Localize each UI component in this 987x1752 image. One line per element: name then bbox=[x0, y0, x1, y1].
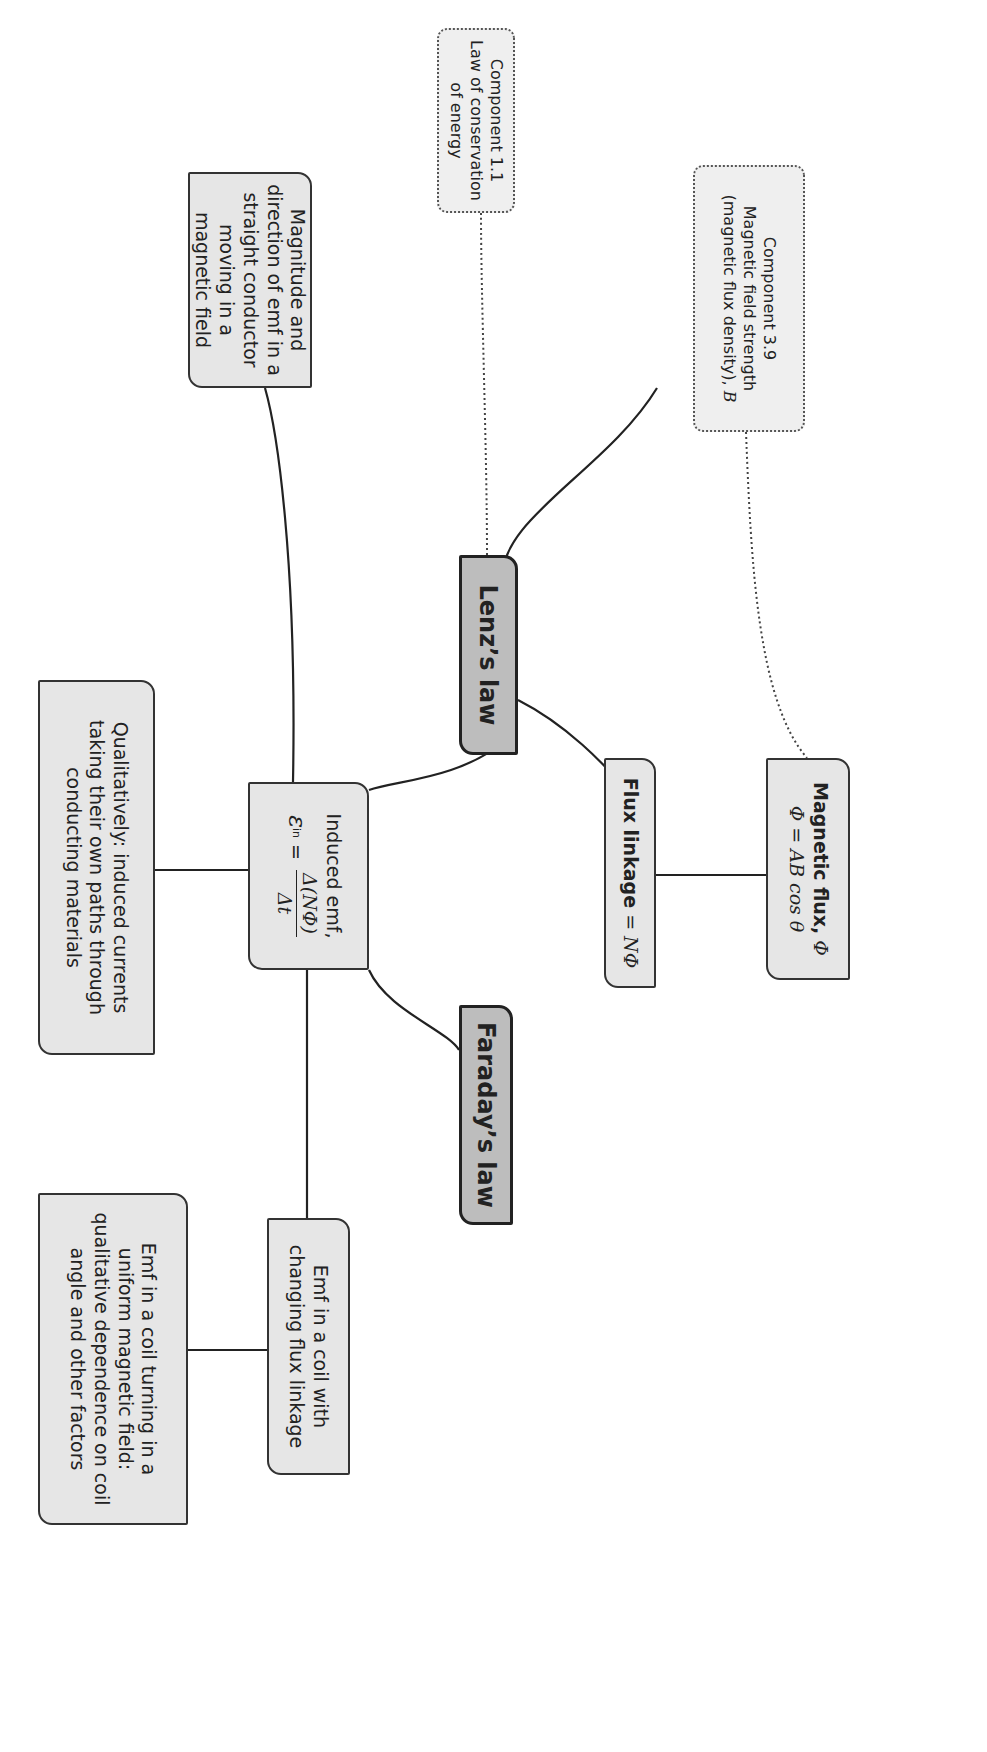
qualitative-currents-text: Qualitatively: induced currents taking t… bbox=[61, 692, 132, 1043]
link-ref-3-9-magnetic bbox=[746, 432, 807, 758]
component-1-1-text: Law of conservation of energy bbox=[446, 40, 486, 201]
flux-linkage-label: Flux linkage bbox=[618, 778, 642, 908]
component-1-1-title: Component 1.1 bbox=[486, 59, 506, 182]
lenz-law-label: Lenz’s law bbox=[474, 585, 504, 726]
induced-emf-box: Induced emf, εin = Δ(NΦ)Δt bbox=[248, 782, 369, 970]
component-3-9-line3: (magnetic flux density), B bbox=[719, 195, 739, 403]
magnitude-direction-text: Magnitude and direction of emf in a stra… bbox=[191, 184, 310, 376]
induced-emf-title: Induced emf, bbox=[321, 814, 345, 939]
component-1-1-box: Component 1.1 Law of conservation of ene… bbox=[437, 28, 515, 213]
faraday-law-label: Faraday’s law bbox=[471, 1022, 501, 1208]
emf-changing-flux-text: Emf in a coil with changing flux linkage bbox=[285, 1230, 333, 1463]
flux-linkage-box: Flux linkage = NΦ bbox=[604, 758, 656, 988]
link-induced-faraday bbox=[369, 970, 459, 1050]
emf-changing-flux-box: Emf in a coil with changing flux linkage bbox=[267, 1218, 350, 1475]
link-magnitude-induced bbox=[265, 388, 294, 782]
component-3-9-box: Component 3.9 Magnetic field strength (m… bbox=[693, 165, 805, 432]
magnetic-flux-title: Magnetic flux, Φ bbox=[808, 782, 832, 956]
magnetic-flux-formula: Φ = AB cos θ bbox=[784, 806, 808, 933]
faraday-law-box: Faraday’s law bbox=[459, 1005, 513, 1225]
lenz-law-box: Lenz’s law bbox=[459, 555, 518, 755]
flux-linkage-formula: = NΦ bbox=[618, 908, 642, 968]
induced-emf-formula: εin = Δ(NΦ)Δt bbox=[272, 815, 321, 937]
emf-coil-turning-box: Emf in a coil turning in a uniform magne… bbox=[38, 1193, 188, 1525]
concept-map: Component 1.1 Law of conservation of ene… bbox=[0, 0, 987, 1752]
component-3-9-title: Component 3.9 bbox=[759, 237, 779, 360]
emf-coil-turning-text: Emf in a coil turning in a uniform magne… bbox=[66, 1205, 161, 1513]
link-lenz-magnitude bbox=[503, 388, 657, 580]
magnitude-direction-box: Magnitude and direction of emf in a stra… bbox=[188, 172, 312, 388]
magnetic-flux-box: Magnetic flux, Φ Φ = AB cos θ bbox=[766, 758, 850, 980]
link-ref-1-1-lenz bbox=[481, 213, 487, 555]
component-3-9-line2: Magnetic field strength bbox=[739, 206, 759, 391]
qualitative-currents-box: Qualitatively: induced currents taking t… bbox=[38, 680, 155, 1055]
